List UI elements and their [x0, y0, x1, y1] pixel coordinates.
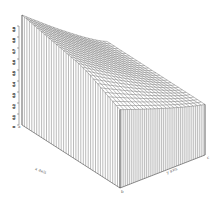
corner-label-b: b — [121, 189, 124, 194]
z-tick-label: 0.6 — [12, 60, 16, 65]
z-axis: 00.10.20.30.40.50.60.70.80.9 — [12, 26, 19, 128]
z-tick-label: 0.2 — [12, 104, 16, 109]
z-tick-label: 0.3 — [12, 93, 16, 98]
corner-label-a: a — [18, 124, 20, 129]
z-tick-label: 0.8 — [12, 38, 16, 43]
corner-label-c: c — [207, 155, 209, 160]
z-tick-label: 0.1 — [12, 115, 16, 120]
z-tick-label: 0 — [12, 126, 16, 128]
surface-mesh — [22, 15, 205, 110]
z-tick-label: 0.4 — [12, 82, 16, 87]
z-tick-label: 0.7 — [12, 49, 16, 54]
surface-plot: 00.10.20.30.40.50.60.70.80.9 — [0, 0, 222, 198]
z-tick-label: 0.9 — [12, 27, 16, 32]
z-tick-label: 0.5 — [12, 71, 16, 76]
